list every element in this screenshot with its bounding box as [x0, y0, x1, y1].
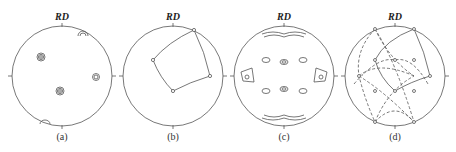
- contour-cluster-upper-left: [37, 53, 45, 61]
- panel-b: [119, 23, 227, 129]
- pole-figures: RD RD RD RD (a) (b) (c) (d): [0, 0, 456, 152]
- rd-label-d: RD: [387, 11, 402, 22]
- panel-a: [8, 23, 116, 129]
- panel-d: [341, 23, 449, 129]
- panel-c: [230, 23, 338, 129]
- caption-c: (c): [278, 131, 289, 143]
- caption-b: (b): [167, 131, 179, 143]
- rd-label-a: RD: [54, 11, 69, 22]
- rd-label-b: RD: [165, 11, 180, 22]
- contour-cluster-center: [56, 87, 64, 95]
- contour-top-edge: [78, 31, 88, 36]
- contour-cluster-right: [93, 74, 100, 81]
- rd-label-c: RD: [276, 11, 291, 22]
- orientation-quadrilateral: [153, 30, 210, 91]
- caption-d: (d): [389, 131, 401, 143]
- caption-a: (a): [56, 131, 67, 143]
